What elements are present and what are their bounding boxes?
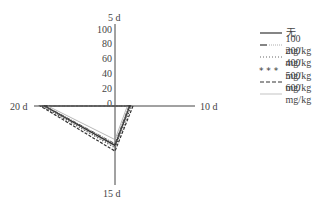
- legend-swatch-solid-icon: [258, 29, 284, 37]
- tick-label: 20: [102, 83, 112, 94]
- legend-item: 600 mg/kg: [258, 88, 328, 100]
- tick-label: 100: [97, 24, 112, 35]
- tick-label: 60: [102, 53, 112, 64]
- legend-swatch-asterisk-icon: * * *: [258, 66, 284, 74]
- legend-label: 600 mg/kg: [286, 82, 328, 106]
- svg-text:* * *: * * *: [259, 66, 279, 74]
- axis-label-15d: 15 d: [103, 188, 121, 199]
- axis-label-20d: 20 d: [10, 101, 28, 112]
- tick-label: 80: [102, 38, 112, 49]
- series-layer: [40, 106, 133, 151]
- legend-swatch-dotted-icon: [258, 53, 284, 61]
- legend: 无 100 mg/kg 200 mg/kg * * * 400 mg/kg 50…: [258, 27, 328, 100]
- tick-label: 0: [107, 98, 112, 109]
- legend-swatch-thin-icon: [258, 90, 284, 98]
- tick-label: 40: [102, 68, 112, 79]
- axis-label-5d: 5 d: [108, 12, 121, 23]
- legend-swatch-dashdot-icon: [258, 41, 284, 49]
- legend-swatch-dashed-icon: [258, 78, 284, 86]
- series-1: [45, 106, 129, 144]
- axis-label-10d: 10 d: [200, 101, 218, 112]
